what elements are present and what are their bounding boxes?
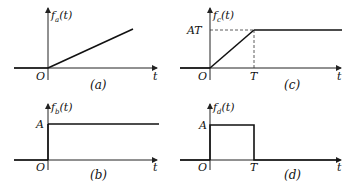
caption: (a)	[90, 78, 107, 92]
ramp-line	[48, 29, 133, 68]
x-axis-label: t	[337, 70, 342, 83]
x-axis-label: t	[153, 70, 158, 83]
x-axis-label: t	[337, 161, 342, 174]
t-mark-label: T	[250, 161, 259, 174]
origin-label: O	[36, 161, 45, 174]
panel-d: fd(t) A O T t (d)	[180, 101, 342, 182]
level-label: A	[35, 118, 44, 131]
ramp-line	[210, 30, 254, 68]
panel-c: fc(t) AT O T t (c)	[180, 8, 342, 92]
origin-label: O	[36, 70, 45, 83]
panel-b: fb(t) A O t (b)	[14, 101, 159, 182]
y-axis-label: fd(t)	[212, 101, 235, 116]
y-axis-label: fc(t)	[212, 9, 234, 24]
caption: (b)	[90, 168, 107, 182]
origin-label: O	[198, 161, 207, 174]
level-label: A	[198, 119, 207, 132]
x-axis-label: t	[153, 161, 158, 174]
y-axis-label: fa(t)	[50, 9, 72, 24]
rectangular-pulse	[210, 125, 340, 160]
caption: (d)	[284, 168, 301, 182]
y-axis-label: fb(t)	[50, 101, 73, 116]
caption: (c)	[284, 78, 300, 92]
origin-label: O	[198, 70, 207, 83]
level-label: AT	[186, 24, 203, 37]
panel-a: fa(t) O t (a)	[14, 8, 158, 92]
t-mark-label: T	[250, 70, 259, 83]
signal-diagrams: fa(t) O t (a) fc(t) AT O T t (c) fb(t) A…	[0, 0, 357, 185]
